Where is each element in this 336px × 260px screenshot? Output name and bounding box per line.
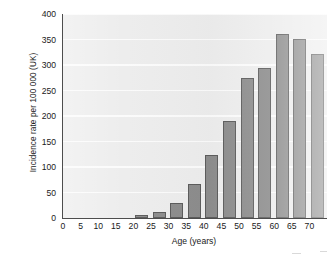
x-tick-label: 55 <box>252 221 262 231</box>
y-tick-label: 0 <box>51 213 56 223</box>
x-tick-label: 15 <box>111 221 121 231</box>
y-tick-label: 200 <box>42 111 56 121</box>
y-tick-label: 350 <box>42 35 56 45</box>
chart-figure: Incidence rate per 100 000 (UK) 05010015… <box>0 0 336 260</box>
x-tick-label: 70 <box>305 221 315 231</box>
y-tick-label: 100 <box>42 162 56 172</box>
x-tick-label: 40 <box>199 221 209 231</box>
y-tick-label: 50 <box>46 188 56 198</box>
x-tick-label: 5 <box>78 221 83 231</box>
plot-area <box>62 14 327 219</box>
scan-artifact <box>292 253 301 254</box>
x-tick-label: 20 <box>129 221 139 231</box>
x-axis-label: Age (years) <box>62 236 326 246</box>
y-tick-label: 250 <box>42 86 56 96</box>
bar <box>258 68 271 218</box>
bar <box>311 54 324 218</box>
x-tick-label: 25 <box>146 221 156 231</box>
x-tick-label: 45 <box>217 221 227 231</box>
bar <box>205 155 218 218</box>
y-axis-tick-labels: 050100150200250300350400 <box>26 0 60 260</box>
bar <box>170 203 183 218</box>
x-tick-label: 60 <box>269 221 279 231</box>
x-tick-label: 30 <box>164 221 174 231</box>
x-axis-tick-labels: 0510152025303540455055606570 <box>62 221 328 235</box>
x-tick-label: 0 <box>61 221 66 231</box>
bar <box>135 215 148 218</box>
x-tick-label: 65 <box>287 221 297 231</box>
bar <box>188 184 201 218</box>
bar <box>153 212 166 218</box>
scan-artifact <box>320 251 327 252</box>
bar <box>276 34 289 218</box>
bar <box>241 78 254 218</box>
x-tick-label: 50 <box>234 221 244 231</box>
y-tick-label: 400 <box>42 9 56 19</box>
bar <box>293 39 306 218</box>
y-tick-label: 300 <box>42 60 56 70</box>
bar-series <box>63 14 327 218</box>
x-tick-label: 10 <box>93 221 103 231</box>
x-tick-label: 35 <box>181 221 191 231</box>
y-tick-label: 150 <box>42 137 56 147</box>
bar <box>223 121 236 218</box>
